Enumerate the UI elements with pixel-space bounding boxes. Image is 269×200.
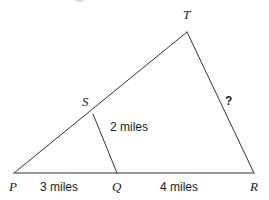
vertex-label-P: P xyxy=(9,180,17,193)
vertex-label-Q: Q xyxy=(112,180,121,193)
measure-label-QR: 4 miles xyxy=(160,181,198,193)
segment-side-TR xyxy=(187,32,254,173)
segment-side-PT xyxy=(14,32,187,173)
measure-label-TR-unknown: ? xyxy=(225,95,232,107)
vertex-label-T: T xyxy=(183,8,190,21)
measure-label-SQ: 2 miles xyxy=(110,121,148,133)
vertex-label-S: S xyxy=(82,95,89,108)
measure-label-PQ: 3 miles xyxy=(40,181,78,193)
geometry-figure-canvas: P Q R S T 3 miles 4 miles 2 miles ? xyxy=(0,0,269,200)
vertex-label-R: R xyxy=(250,180,258,193)
